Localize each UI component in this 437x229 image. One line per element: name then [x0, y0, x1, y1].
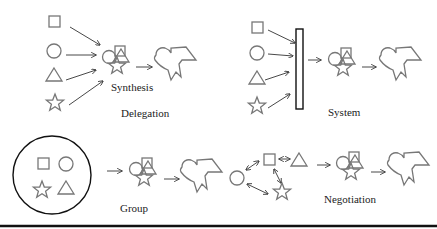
merged-shapes	[329, 48, 356, 75]
square-shape	[264, 154, 275, 165]
triangle-shape	[46, 68, 62, 81]
triangle-shape	[58, 181, 74, 194]
group-enclosure	[13, 136, 91, 214]
circle-shape	[230, 171, 244, 185]
bidirectional-arrow-icon	[246, 161, 259, 170]
star-shape	[273, 183, 290, 199]
star-shape	[248, 97, 265, 113]
arrow-icon	[69, 81, 103, 105]
circle-shape	[47, 44, 61, 58]
triangle-shape	[291, 153, 307, 166]
synthesized-shape	[181, 159, 222, 192]
arrow-icon	[66, 70, 96, 80]
circle-shape	[59, 157, 73, 171]
delegation-label: Delegation	[121, 107, 170, 119]
arrow-icon	[268, 54, 293, 56]
synthesized-shape	[388, 152, 429, 185]
panel-negotiation: Negotiation	[230, 152, 429, 205]
system-bar	[296, 29, 303, 109]
merged-shapes	[130, 158, 157, 185]
synthesized-shape	[380, 47, 421, 80]
negotiation-label: Negotiation	[324, 193, 376, 205]
arrow-icon	[70, 27, 100, 45]
panel-delegation: Synthesis Delegation	[46, 16, 196, 119]
synthesized-shape	[155, 47, 196, 80]
merged-shapes	[103, 46, 130, 73]
triangle-shape	[249, 71, 265, 84]
synthesis-label: Synthesis	[111, 81, 153, 93]
bidirectional-arrow-icon	[247, 184, 268, 194]
diagram-canvas: Synthesis Delegation System Group	[0, 0, 437, 229]
bidirectional-arrow-icon	[274, 169, 281, 183]
group-label: Group	[120, 202, 149, 214]
panel-group: Group	[13, 136, 222, 214]
star-shape	[33, 181, 50, 197]
square-shape	[38, 158, 49, 169]
arrow-icon	[265, 72, 289, 80]
circle-shape	[250, 46, 264, 60]
square-shape	[252, 22, 263, 33]
square-shape	[49, 16, 60, 27]
arrow-icon	[268, 30, 295, 43]
arrow-icon	[268, 94, 290, 108]
merged-shapes	[337, 152, 364, 179]
system-label: System	[328, 106, 361, 118]
panel-system: System	[248, 22, 421, 118]
star-shape	[46, 94, 63, 110]
